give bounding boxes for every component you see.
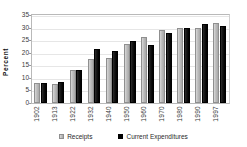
y-axis-tick-label: 30 <box>1 25 29 32</box>
y-axis-tick-label: 10 <box>1 75 29 82</box>
bar-expenditures-1922 <box>76 70 82 103</box>
bar-receipts-1940 <box>106 58 112 103</box>
bar-receipts-1913 <box>52 84 58 103</box>
bar-expenditures-1990 <box>202 24 208 103</box>
expenditures-swatch-icon <box>118 134 123 139</box>
bar-group <box>195 15 213 103</box>
x-axis-tick-label: 1997 <box>212 106 236 122</box>
bar-receipts-1980 <box>177 28 183 103</box>
bar-group <box>70 15 88 103</box>
bar-group <box>52 15 70 103</box>
bar-expenditures-1902 <box>41 83 47 103</box>
bar-expenditures-1997 <box>220 26 226 103</box>
bar-group <box>124 15 142 103</box>
bar-group <box>141 15 159 103</box>
bar-group <box>177 15 195 103</box>
bar-expenditures-1970 <box>166 33 172 103</box>
bar-expenditures-1940 <box>112 51 118 103</box>
bar-receipts-1902 <box>34 83 40 103</box>
y-axis-tick-label: 0 <box>1 100 29 107</box>
y-axis-tick-label: 15 <box>1 62 29 69</box>
bar-expenditures-1932 <box>94 49 100 103</box>
bar-receipts-1922 <box>70 70 76 103</box>
x-axis-labels: 1902191319221932194019501960197019801990… <box>32 106 229 130</box>
y-axis-ticks: 05101520253035 <box>0 14 29 104</box>
bar-group <box>88 15 106 103</box>
bar-receipts-1990 <box>195 28 201 103</box>
bar-receipts-1970 <box>159 30 165 103</box>
bar-expenditures-1950 <box>130 41 136 103</box>
chart-title <box>0 0 247 4</box>
bar-receipts-1997 <box>213 23 219 103</box>
legend-item[interactable]: Current Expenditures <box>118 133 187 140</box>
legend-item[interactable]: Receipts <box>59 133 92 140</box>
legend-label: Receipts <box>67 133 92 140</box>
bar-group <box>213 15 231 103</box>
bar-receipts-1950 <box>124 44 130 103</box>
y-axis-tick-label: 5 <box>1 87 29 94</box>
bar-expenditures-1980 <box>184 28 190 103</box>
bar-expenditures-1913 <box>58 82 64 103</box>
bar-chart: Percent 05101520253035 19021913192219321… <box>0 0 247 147</box>
bar-receipts-1960 <box>141 37 147 103</box>
y-axis-tick-label: 35 <box>1 12 29 19</box>
receipts-swatch-icon <box>59 134 64 139</box>
y-axis-tick-label: 25 <box>1 37 29 44</box>
bar-group <box>159 15 177 103</box>
bar-receipts-1932 <box>88 59 94 104</box>
y-axis-tick-label: 20 <box>1 50 29 57</box>
bar-group <box>34 15 52 103</box>
legend-label: Current Expenditures <box>126 133 187 140</box>
bar-expenditures-1960 <box>148 45 154 103</box>
chart-legend: ReceiptsCurrent Expenditures <box>0 133 247 140</box>
bars-layer <box>32 15 229 103</box>
bar-group <box>106 15 124 103</box>
